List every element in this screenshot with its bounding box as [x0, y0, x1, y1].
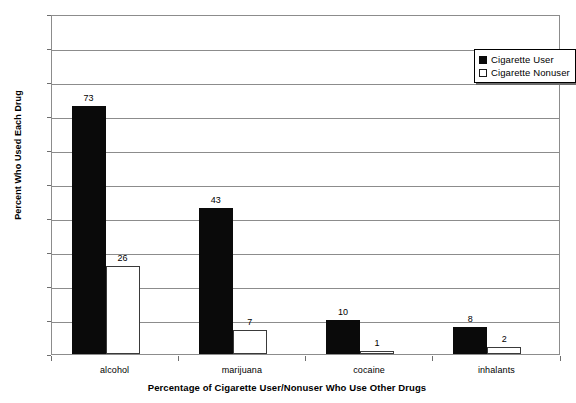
legend-item: Cigarette Nonuser	[479, 66, 570, 79]
bar	[106, 266, 140, 354]
legend-item-label: Cigarette User	[491, 54, 554, 65]
x-tick-mark	[305, 356, 306, 361]
x-tick-mark	[432, 356, 433, 361]
bar	[233, 330, 267, 354]
bar	[199, 208, 233, 354]
y-axis-title: Percent Who Used Each Drug	[13, 55, 23, 255]
bar-value-label: 1	[360, 339, 394, 348]
chart-legend: Cigarette User Cigarette Nonuser	[474, 49, 576, 83]
x-tick-label: inhalants	[433, 365, 560, 375]
bar	[72, 106, 106, 354]
bar	[487, 347, 521, 354]
x-tick-mark	[560, 356, 561, 361]
x-axis-title: Percentage of Cigarette User/Nonuser Who…	[0, 382, 574, 393]
x-tick-label: marijuana	[178, 365, 305, 375]
legend-swatch-icon	[479, 56, 487, 64]
gridline	[52, 118, 559, 119]
gridline	[52, 186, 559, 187]
bar	[360, 351, 394, 354]
legend-item: Cigarette User	[479, 53, 570, 66]
x-tick-mark	[51, 356, 52, 361]
gridline	[52, 220, 559, 221]
gridline	[52, 152, 559, 153]
x-tick-label: cocaine	[306, 365, 433, 375]
x-tick-mark	[178, 356, 179, 361]
bar-value-label: 10	[326, 308, 360, 317]
x-tick-label: alcohol	[51, 365, 178, 375]
bar-value-label: 26	[106, 254, 140, 263]
bar	[326, 320, 360, 354]
bar-value-label: 8	[453, 315, 487, 324]
bar	[453, 327, 487, 354]
bar-value-label: 7	[233, 318, 267, 327]
bar-value-label: 2	[487, 335, 521, 344]
legend-swatch-icon	[479, 69, 487, 77]
legend-item-label: Cigarette Nonuser	[491, 67, 570, 78]
gridline	[52, 84, 559, 85]
bar-value-label: 73	[72, 94, 106, 103]
bar-value-label: 43	[199, 196, 233, 205]
